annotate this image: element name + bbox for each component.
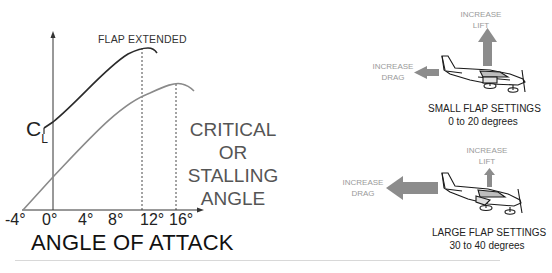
small-lift-arrow-icon (478, 28, 497, 66)
critical-angle-annotation: CRITICAL OR STALLING ANGLE (178, 118, 288, 210)
lift-curve-chart: FLAP EXTENDED CL CRITICAL OR STALLING AN… (0, 0, 300, 260)
annotation-line-3: ANGLE (178, 187, 288, 210)
cl-axis-label: CL (26, 117, 48, 141)
annotation-line-1: CRITICAL OR (178, 118, 288, 164)
small-drag-arrow-icon (414, 66, 439, 79)
airplane-icon (442, 173, 522, 214)
small-drag-label: INCREASE DRAG (370, 61, 416, 83)
x-tick-16: 16° (169, 211, 193, 229)
x-tick-4: 4° (78, 211, 93, 229)
small-flap-caption-title: SMALL FLAP SETTINGS (428, 102, 538, 115)
large-drag-arrow-icon (386, 176, 438, 200)
small-flap-graphic (350, 0, 540, 100)
large-flap-caption-range: 30 to 40 degrees (432, 239, 542, 252)
cl-axis-label-subscript: L (41, 132, 48, 146)
bottom-divider (15, 260, 500, 261)
small-flap-caption: SMALL FLAP SETTINGS 0 to 20 degrees (428, 102, 538, 128)
y-axis-arrow-icon (51, 31, 56, 38)
normal-lift-curve (23, 83, 194, 210)
flap-extended-label: FLAP EXTENDED (98, 33, 187, 45)
large-flap-caption-title: LARGE FLAP SETTINGS (432, 226, 542, 239)
large-drag-label-line1: INCREASE (340, 177, 386, 188)
annotation-line-2: STALLING (178, 164, 288, 187)
cl-axis-label-main: C (26, 117, 41, 140)
x-tick-0: 0° (42, 211, 57, 229)
small-flap-caption-range: 0 to 20 degrees (428, 115, 538, 128)
large-drag-label-line2: DRAG (340, 188, 386, 199)
large-lift-arrow-icon (484, 168, 495, 187)
small-flap-panel: INCREASE LIFT INCREASE DRAG (350, 0, 540, 125)
x-tick-12: 12° (140, 211, 164, 229)
flap-extended-lift-curve (44, 48, 157, 128)
small-drag-label-line1: INCREASE (370, 61, 416, 72)
x-axis-title: ANGLE OF ATTACK (31, 230, 234, 256)
x-tick-8: 8° (108, 211, 123, 229)
x-tick-neg4: -4° (5, 211, 26, 229)
large-drag-label: INCREASE DRAG (340, 177, 386, 199)
small-drag-label-line2: DRAG (370, 72, 416, 83)
large-flap-caption: LARGE FLAP SETTINGS 30 to 40 degrees (432, 226, 542, 252)
large-flap-panel: INCREASE LIFT INCREASE DRAG LA (340, 130, 540, 260)
